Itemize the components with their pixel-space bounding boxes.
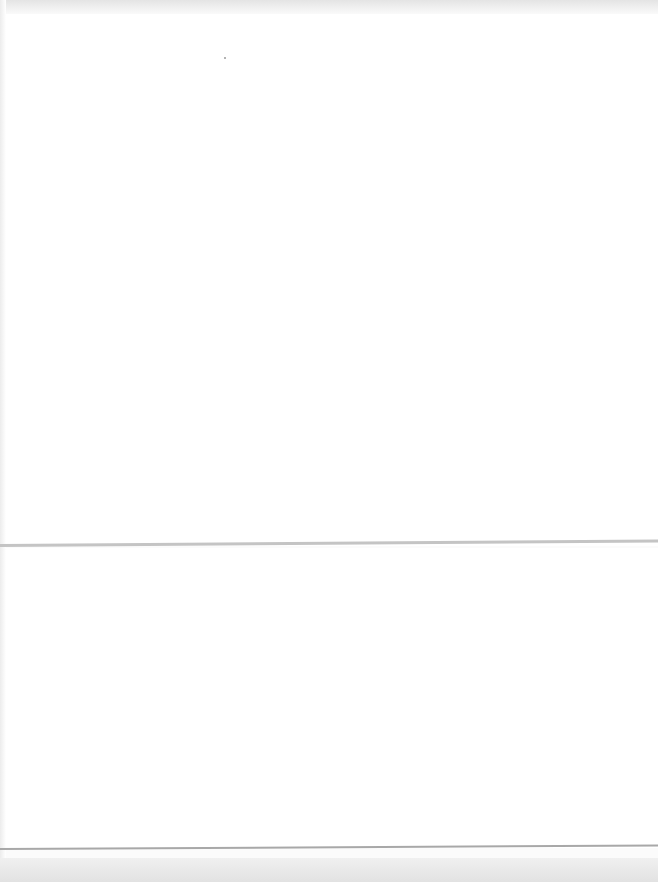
lower-blank-sheet	[0, 548, 658, 848]
paper-speck	[224, 57, 226, 59]
upper-blank-sheet	[0, 0, 658, 546]
background-surface	[0, 858, 658, 882]
top-shadow	[0, 0, 658, 14]
left-shadow	[0, 0, 6, 882]
